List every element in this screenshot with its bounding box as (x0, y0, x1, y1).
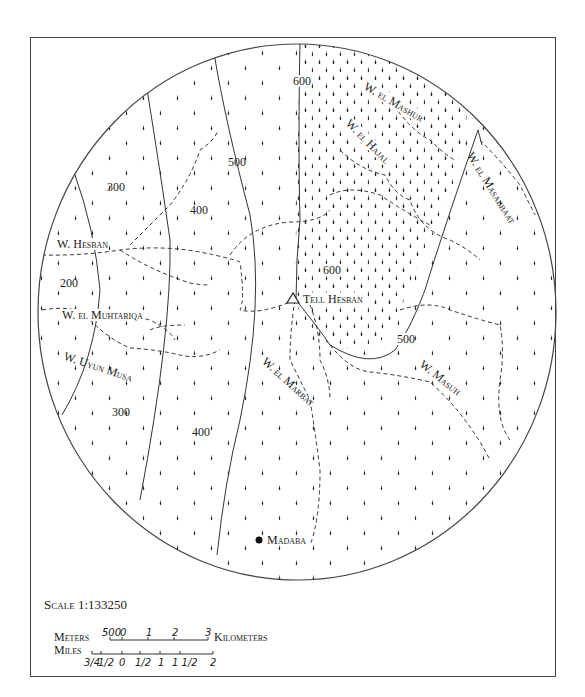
mile-tick-1: 1 (158, 657, 164, 668)
elevation-label-600-center: 600 (323, 264, 341, 276)
mile-tick-1-2b: 1/2 (135, 657, 151, 668)
elevation-label-300: 300 (107, 181, 125, 193)
kilometers-label: Kilometers (214, 630, 268, 645)
site-label-tell-hesban: Tell Hesban (303, 293, 363, 305)
scale-ratio: Scale 1:133250 (44, 597, 127, 613)
km-tick-0: 0 (120, 627, 126, 638)
mile-tick-1-1-2: 1 1/2 (172, 657, 198, 668)
elevation-label-400: 400 (190, 204, 208, 216)
elevation-label-600: 600 (293, 75, 311, 87)
madaba-dot-icon (256, 537, 263, 544)
map-canvas (0, 0, 585, 697)
km-tick-2: 2 (172, 627, 178, 638)
elevation-label-500: 500 (228, 156, 246, 168)
km-tick-1: 1 (146, 627, 152, 638)
elevation-label-400-south: 400 (192, 426, 210, 438)
wadi-label-hesban: W. Hesban (57, 238, 108, 250)
mile-tick-1-2: 1/2 (98, 657, 114, 668)
scale-bars (92, 637, 213, 654)
km-tick-3: 3 (205, 627, 211, 638)
mile-tick-0: 0 (119, 657, 125, 668)
elevation-label-500-east: 500 (397, 333, 415, 345)
elevation-label-300-south: 300 (112, 406, 130, 418)
km-tick-500: 500 (102, 627, 121, 638)
site-label-madaba: Madaba (267, 534, 306, 546)
mile-tick-2: 2 (210, 657, 216, 668)
elevation-label-200: 200 (60, 277, 78, 289)
miles-label: Miles (54, 643, 82, 658)
wadi-label-muhtariqa: W. el Muhtariqa (62, 309, 143, 321)
